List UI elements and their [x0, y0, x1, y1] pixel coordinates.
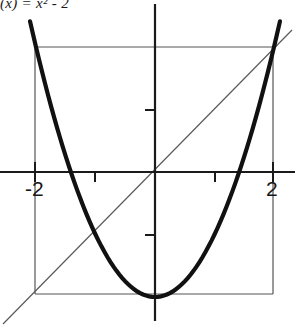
- plot-canvas: [0, 0, 295, 330]
- x-axis-label-neg-two: -2: [25, 178, 44, 199]
- figure-container: (x) = x² - 2 -2 2: [0, 0, 295, 330]
- x-axis-label-pos-two: 2: [266, 178, 278, 199]
- identity-line: [3, 30, 292, 324]
